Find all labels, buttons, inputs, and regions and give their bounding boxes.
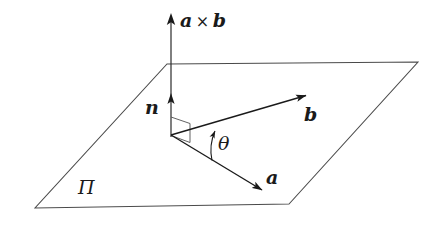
label-cross-product: a×b xyxy=(180,11,227,30)
label-cross-product-operator: × xyxy=(193,12,213,31)
label-vector-a: a xyxy=(266,168,278,187)
cross-product-figure: a×b n b a θ Π xyxy=(0,0,447,229)
label-plane-pi: Π xyxy=(78,178,95,197)
figure-canvas xyxy=(0,0,447,229)
label-vector-b: b xyxy=(304,105,317,124)
label-angle-theta: θ xyxy=(218,134,229,153)
label-normal-vector: n xyxy=(145,98,159,117)
label-cross-product-b: b xyxy=(213,9,227,31)
label-cross-product-a: a xyxy=(180,9,193,31)
